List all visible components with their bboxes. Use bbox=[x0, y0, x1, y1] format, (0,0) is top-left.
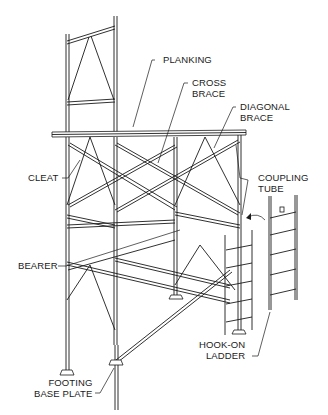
footing-base-plates bbox=[60, 295, 246, 375]
label-coupling-tube: COUPLING TUBE bbox=[258, 173, 308, 194]
label-diagonal-brace: DIAGONAL BRACE bbox=[240, 102, 290, 123]
uprights bbox=[66, 135, 241, 410]
cross-braces bbox=[68, 140, 240, 362]
label-planking: PLANKING bbox=[163, 55, 212, 66]
planking bbox=[52, 130, 246, 137]
label-hook-on-ladder: HOOK-ON LADDER bbox=[199, 340, 245, 361]
diagonal-braces bbox=[67, 137, 240, 330]
label-footing-base-plate: FOOTING BASE PLATE bbox=[34, 378, 92, 399]
top-guard-frame bbox=[66, 16, 117, 135]
label-bearer: BEARER bbox=[18, 261, 58, 272]
hook-on-ladder bbox=[269, 195, 297, 310]
label-cross-brace: CROSS BRACE bbox=[192, 78, 226, 99]
label-cleat: CLEAT bbox=[28, 173, 58, 184]
